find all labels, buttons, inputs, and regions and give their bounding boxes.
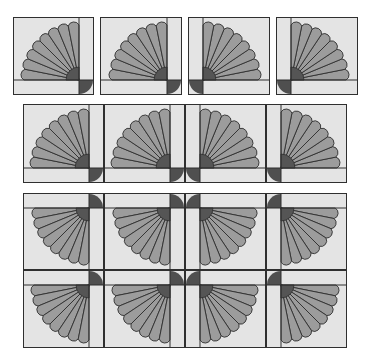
fan-block bbox=[104, 193, 185, 270]
fan-block bbox=[100, 17, 182, 95]
fan-block bbox=[185, 270, 266, 348]
fan-block bbox=[266, 104, 347, 183]
fan-block bbox=[188, 17, 270, 95]
fan-block bbox=[23, 270, 104, 348]
fan-block bbox=[266, 193, 347, 270]
fan-block bbox=[13, 17, 94, 95]
fan-block bbox=[185, 104, 266, 183]
fan-block bbox=[104, 104, 185, 183]
fan-block bbox=[104, 270, 185, 348]
fan-block bbox=[266, 270, 347, 348]
fan-block bbox=[23, 193, 104, 270]
fan-block bbox=[23, 104, 104, 183]
fan-block bbox=[185, 193, 266, 270]
fan-block bbox=[276, 17, 358, 95]
